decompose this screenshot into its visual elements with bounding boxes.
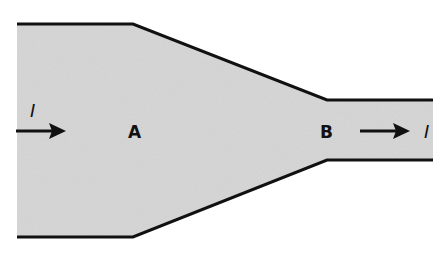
point-a-label: A xyxy=(128,122,142,142)
current-in-label: I xyxy=(30,100,35,121)
point-b-label: B xyxy=(320,122,333,142)
conductor-diagram: I A B I xyxy=(0,0,446,255)
current-out-label: I xyxy=(424,121,429,142)
